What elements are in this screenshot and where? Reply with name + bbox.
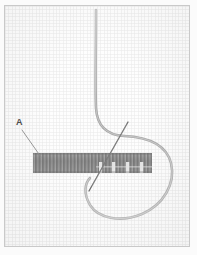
satin-stitch-band bbox=[33, 153, 152, 173]
thread-loop bbox=[85, 10, 172, 219]
callout-label-a: A bbox=[16, 118, 23, 127]
diagram-artwork bbox=[0, 0, 197, 255]
stitch-diagram-figure: A bbox=[0, 0, 197, 255]
leader-line-a bbox=[22, 130, 41, 157]
